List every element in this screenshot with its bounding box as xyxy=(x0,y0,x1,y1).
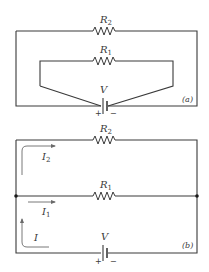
battery-plus-a: + xyxy=(95,109,102,118)
circuit-b: R2 R1 V + − (b) I2 I1 I xyxy=(14,123,199,266)
resistor-r2-b xyxy=(93,136,117,144)
current-label-i: I xyxy=(33,232,39,243)
battery-minus-b: − xyxy=(110,257,117,266)
resistor-r1-a xyxy=(93,57,117,65)
current-label-i1: I1 xyxy=(41,206,50,219)
r1-label-a: R1 xyxy=(99,44,112,57)
resistor-r1-b xyxy=(93,192,117,200)
r2-label-b: R2 xyxy=(99,123,112,136)
figure-label-a: (a) xyxy=(182,95,193,104)
current-label-i2: I2 xyxy=(41,151,50,164)
r1-label-b: R1 xyxy=(99,179,112,192)
junction-right xyxy=(195,194,199,198)
arrowhead-icon xyxy=(51,200,56,204)
arrowhead-icon xyxy=(20,218,24,223)
circuit-a: R2 R1 V + − (a) xyxy=(16,14,197,118)
r2-label-a: R2 xyxy=(99,14,112,27)
figure-label-b: (b) xyxy=(182,241,193,250)
arrowhead-icon xyxy=(51,144,56,148)
battery-label-b: V xyxy=(101,231,110,242)
battery-minus-a: − xyxy=(110,109,117,118)
resistor-r2-a xyxy=(93,27,117,35)
battery-plus-b: + xyxy=(95,257,102,266)
junction-left xyxy=(14,194,18,198)
battery-label-a: V xyxy=(100,84,109,95)
